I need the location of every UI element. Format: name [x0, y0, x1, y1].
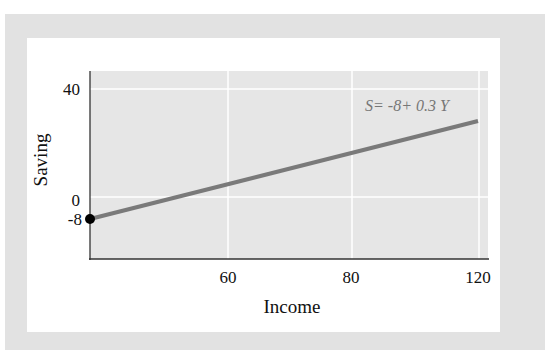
intercept-point: [85, 214, 95, 224]
y-axis-label: Saving: [30, 133, 51, 186]
x-axis-label: Income: [264, 296, 321, 317]
equation-label: S= -8+ 0.3 Y: [365, 97, 451, 114]
x-tick-120: 120: [465, 268, 491, 287]
y-tick-minus-8: -8: [68, 210, 82, 229]
x-tick-60: 60: [220, 268, 237, 287]
x-tick-80: 80: [343, 268, 360, 287]
y-tick-40: 40: [63, 80, 80, 99]
y-tick-0: 0: [72, 191, 81, 210]
chart-svg: S= -8+ 0.3 Y 40 0 -8 60 80 120 Income Sa…: [0, 0, 550, 352]
